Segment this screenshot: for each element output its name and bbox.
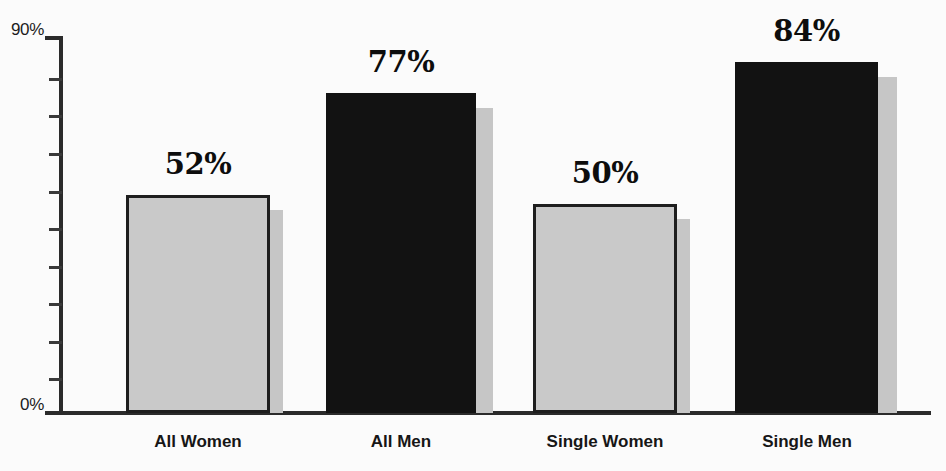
- x-axis-category-label: Single Men: [725, 432, 889, 452]
- bar-value-label: 84%: [735, 14, 878, 48]
- y-axis-tick-major-bottom: [45, 411, 62, 415]
- y-axis-tick-minor: [49, 153, 62, 156]
- y-axis-tick-minor: [49, 378, 62, 381]
- bar-single-men[interactable]: [735, 62, 878, 413]
- bar-value-label: 77%: [326, 45, 476, 79]
- y-axis-tick-minor: [49, 341, 62, 344]
- x-axis-category-label: Single Women: [523, 432, 687, 452]
- y-axis-line: [59, 36, 63, 415]
- y-axis-tick-minor: [49, 266, 62, 269]
- bar-all-men[interactable]: [326, 93, 476, 413]
- y-axis-tick-major-top: [45, 36, 62, 40]
- bar-value-label: 50%: [533, 156, 677, 190]
- plot-area: 90% 0% 52% All Women 77% All Men 50% Sin…: [0, 0, 946, 471]
- y-axis-tick-minor: [49, 191, 62, 194]
- bar-single-women[interactable]: [533, 204, 677, 413]
- x-axis-category-label: All Men: [326, 432, 476, 452]
- y-axis-tick-minor: [49, 303, 62, 306]
- y-axis-tick-minor: [49, 78, 62, 81]
- bar-chart: 90% 0% 52% All Women 77% All Men 50% Sin…: [0, 0, 946, 471]
- y-axis-label-max: 90%: [0, 20, 44, 40]
- y-axis-label-min: 0%: [0, 395, 44, 415]
- bar-value-label: 52%: [126, 147, 270, 181]
- bar-all-women[interactable]: [126, 195, 270, 413]
- y-axis-tick-minor: [49, 115, 62, 118]
- x-axis-category-label: All Women: [126, 432, 270, 452]
- y-axis-tick-minor: [49, 228, 62, 231]
